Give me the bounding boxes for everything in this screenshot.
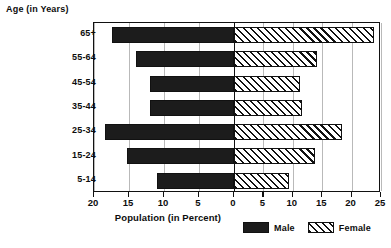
bar-female-15-24: [234, 148, 315, 164]
y-tick-label-5-14: 5-14: [12, 174, 96, 184]
y-tick-label-45-54: 45-54: [12, 77, 96, 87]
bar-female-35-44: [234, 100, 302, 116]
bar-row: [94, 120, 379, 144]
legend-label-female: Female: [339, 223, 371, 233]
bar-row: [94, 47, 379, 71]
bar-row: [94, 169, 379, 193]
bar-row: [94, 72, 379, 96]
x-tick-label-6: 10: [277, 197, 307, 208]
y-tick-label-15-24: 15-24: [12, 150, 96, 160]
x-tick-label-4: 0: [218, 197, 248, 208]
bar-row: [94, 144, 379, 168]
bar-row: [94, 23, 379, 47]
gridline: [381, 23, 382, 191]
x-tick-label-5: 5: [247, 197, 277, 208]
bar-female-5-14: [234, 173, 289, 189]
y-tick-label-65+: 65+: [12, 28, 96, 38]
x-tick-label-0: 20: [78, 197, 108, 208]
x-tick-label-3: 5: [183, 197, 213, 208]
bar-male-5-14: [157, 173, 234, 189]
bar-male-55-64: [136, 51, 234, 67]
bar-male-25-34: [105, 124, 235, 140]
bar-female-45-54: [234, 76, 300, 92]
x-tick-label-2: 10: [148, 197, 178, 208]
bar-male-15-24: [127, 148, 234, 164]
x-tick-label-1: 15: [113, 197, 143, 208]
legend-entry-female: Female: [308, 222, 371, 233]
legend-swatch-male-icon: [243, 222, 269, 233]
bar-female-55-64: [234, 51, 317, 67]
legend-entry-male: Male: [243, 222, 295, 233]
bar-male-45-54: [150, 76, 234, 92]
x-tick-label-8: 20: [336, 197, 366, 208]
bar-male-35-44: [150, 100, 234, 116]
legend-label-male: Male: [274, 223, 295, 233]
chart-legend: Male Female: [243, 222, 371, 233]
x-tick-label-9: 25: [365, 197, 391, 208]
bar-row: [94, 96, 379, 120]
bar-male-65+: [112, 27, 235, 43]
y-tick-label-55-64: 55-64: [12, 52, 96, 62]
population-pyramid-chart: Age (in Years) 65+55-6445-5435-4425-3415…: [0, 0, 391, 248]
y-tick-label-35-44: 35-44: [12, 101, 96, 111]
plot-area: [93, 22, 380, 192]
legend-swatch-female-icon: [308, 222, 334, 233]
zero-axis-line: [234, 23, 235, 191]
y-axis-title: Age (in Years): [6, 4, 69, 14]
bar-female-25-34: [234, 124, 342, 140]
x-axis-title: Population (in Percent): [98, 212, 238, 223]
bar-female-65+: [234, 27, 374, 43]
y-tick-label-25-34: 25-34: [12, 125, 96, 135]
x-tick-label-7: 15: [306, 197, 336, 208]
